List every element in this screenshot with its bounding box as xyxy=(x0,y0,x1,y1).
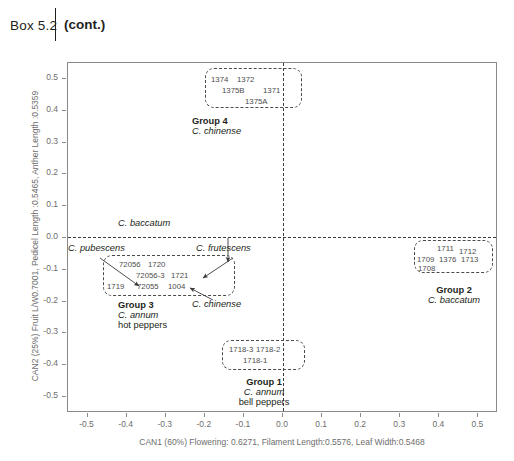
x-axis-title: CAN1 (60%) Flowering: 0.6271, Filament L… xyxy=(67,437,497,447)
accession-label: 1711 xyxy=(437,244,454,253)
x-tick-mark xyxy=(204,413,205,417)
y-tick-mark xyxy=(62,364,66,365)
x-tick-label: 0.0 xyxy=(262,419,302,429)
group-name: Group 4 xyxy=(192,116,241,126)
accession-label: 1374 xyxy=(211,75,228,84)
accession-label: 1708 xyxy=(418,264,435,273)
x-tick-mark xyxy=(243,413,244,417)
group-species: C. chinense xyxy=(192,126,241,136)
y-tick-mark xyxy=(62,332,66,333)
x-tick-mark xyxy=(282,413,283,417)
accession-label: 1375A xyxy=(245,97,268,106)
x-tick-label: 0.4 xyxy=(418,419,458,429)
cluster-label-group-2: Group 2 C. baccatum xyxy=(412,285,496,305)
accession-label: 1719 xyxy=(107,282,124,291)
y-tick-mark xyxy=(62,78,66,79)
annotation-c-frutescens: C. frutescens xyxy=(196,243,251,253)
y-tick-mark xyxy=(62,142,66,143)
y-tick-mark xyxy=(62,173,66,174)
accession-label: 1718-3 xyxy=(229,345,253,354)
x-tick-label: -0.5 xyxy=(67,419,107,429)
group-species: C. annum xyxy=(200,387,328,397)
accession-label: 1004 xyxy=(168,282,185,291)
y-tick-mark xyxy=(62,396,66,397)
x-tick-label: -0.4 xyxy=(106,419,146,429)
x-tick-label: -0.1 xyxy=(223,419,263,429)
group-species: C. baccatum xyxy=(412,295,496,305)
x-tick-mark xyxy=(165,413,166,417)
y-tick-mark xyxy=(62,269,66,270)
accession-label: 1375B xyxy=(222,86,245,95)
accession-label: 1372 xyxy=(237,75,254,84)
cluster-label-group-1: Group 1 C. annum bell peppers xyxy=(200,377,328,407)
zero-horizontal-reference-line xyxy=(68,237,496,238)
x-tick-label: 0.3 xyxy=(379,419,419,429)
y-tick-mark xyxy=(62,110,66,111)
group-name: Group 2 xyxy=(412,285,496,295)
x-tick-label: 0.5 xyxy=(457,419,497,429)
accession-label: 1709 xyxy=(417,255,434,264)
x-tick-label: -0.3 xyxy=(145,419,185,429)
accession-label: 1376 xyxy=(439,255,456,264)
annotation-c-chinense: C. chinense xyxy=(192,299,241,309)
group-species: C. annum xyxy=(118,310,167,320)
x-tick-label: 0.2 xyxy=(340,419,380,429)
group-common-name: bell peppers xyxy=(200,397,328,407)
cluster-label-group-3: Group 3 C. annum hot peppers xyxy=(118,300,167,330)
accession-label: 1371 xyxy=(263,86,280,95)
accession-label: 1713 xyxy=(461,255,478,264)
accession-label: 1718-1 xyxy=(243,356,267,365)
x-tick-mark xyxy=(438,413,439,417)
x-tick-mark xyxy=(87,413,88,417)
x-tick-mark xyxy=(360,413,361,417)
y-tick-mark xyxy=(62,205,66,206)
accession-label: 72056 xyxy=(119,260,141,269)
y-tick-mark xyxy=(62,237,66,238)
x-tick-mark xyxy=(126,413,127,417)
canonical-discriminant-scatter-plot: -0.5-0.4-0.3-0.2-0.10.00.10.20.30.40.5 0… xyxy=(0,0,514,461)
accession-label: 72055 xyxy=(137,282,159,291)
accession-label: 72056-3 xyxy=(136,271,165,280)
group-common-name: hot peppers xyxy=(118,320,167,330)
cluster-label-group-4: Group 4 C. chinense xyxy=(192,116,241,136)
accession-label: 1721 xyxy=(171,271,188,280)
annotation-c-baccatum: C. baccatum xyxy=(118,218,170,228)
accession-label: 1718-2 xyxy=(256,345,280,354)
x-tick-mark xyxy=(477,413,478,417)
x-tick-label: -0.2 xyxy=(184,419,224,429)
group-name: Group 1 xyxy=(200,377,328,387)
y-tick-mark xyxy=(62,301,66,302)
annotation-c-pubescens: C. pubescens xyxy=(68,243,125,253)
accession-label: 1720 xyxy=(148,260,165,269)
x-tick-mark xyxy=(321,413,322,417)
x-tick-label: 0.1 xyxy=(301,419,341,429)
y-axis-title: CAN2 (25%) Fruit L/W0.7001, Pedicel Leng… xyxy=(30,60,40,412)
group-name: Group 3 xyxy=(118,300,167,310)
x-tick-mark xyxy=(399,413,400,417)
